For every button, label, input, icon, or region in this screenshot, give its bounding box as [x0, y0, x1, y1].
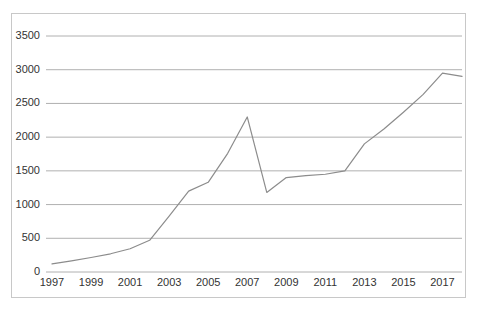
x-axis-tick-label: 2015 [383, 277, 423, 288]
x-axis-tick-label: 1999 [71, 277, 111, 288]
line-chart-plot [0, 0, 477, 315]
y-axis-tick-label: 1000 [0, 199, 40, 210]
gridlines-group [46, 36, 462, 272]
y-axis-tick-label: 500 [0, 232, 40, 243]
y-axis-tick-label: 3500 [0, 30, 40, 41]
x-axis-tick-label: 2001 [110, 277, 150, 288]
y-axis-tick-label: 2000 [0, 131, 40, 142]
y-axis-tick-label: 3000 [0, 64, 40, 75]
x-axis-tick-label: 1997 [32, 277, 72, 288]
x-axis-tick-label: 2017 [422, 277, 462, 288]
y-axis-tick-label: 1500 [0, 165, 40, 176]
data-line-series-1 [52, 73, 462, 264]
x-axis-tick-label: 2005 [188, 277, 228, 288]
y-axis-tick-label: 2500 [0, 97, 40, 108]
data-series-group [52, 73, 462, 264]
x-axis-tick-label: 2011 [305, 277, 345, 288]
x-axis-tick-label: 2009 [266, 277, 306, 288]
x-axis-tick-label: 2013 [344, 277, 384, 288]
x-axis-tick-label: 2007 [227, 277, 267, 288]
y-axis-tick-label: 0 [0, 266, 40, 277]
x-axis-tick-label: 2003 [149, 277, 189, 288]
